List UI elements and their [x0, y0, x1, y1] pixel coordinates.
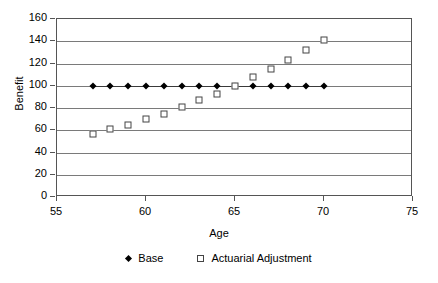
y-tick-mark-120 [50, 63, 55, 64]
legend-label-base: Base [138, 252, 163, 264]
data-point-actuarial-adjustment-68 [285, 57, 292, 64]
data-point-base-60 [142, 82, 149, 89]
x-tick-label-55: 55 [36, 206, 76, 217]
y-tick-mark-0 [50, 196, 55, 197]
y-tick-label-160: 160 [0, 12, 47, 23]
data-point-base-61 [160, 82, 167, 89]
data-point-base-68 [285, 82, 292, 89]
y-tick-label-20: 20 [0, 168, 47, 179]
data-point-actuarial-adjustment-70 [321, 37, 328, 44]
y-tick-label-120: 120 [0, 57, 47, 68]
data-point-base-70 [320, 82, 327, 89]
y-tick-mark-60 [50, 129, 55, 130]
data-point-actuarial-adjustment-59 [125, 121, 132, 128]
data-point-base-59 [125, 82, 132, 89]
x-tick-label-75: 75 [392, 206, 432, 217]
y-tick-label-0: 0 [0, 190, 47, 201]
data-point-actuarial-adjustment-57 [89, 130, 96, 137]
gridline-140 [57, 41, 411, 42]
data-point-actuarial-adjustment-62 [178, 103, 185, 110]
x-tick-mark-55 [56, 196, 57, 201]
y-tick-label-60: 60 [0, 123, 47, 134]
plot-area [56, 18, 412, 196]
data-point-actuarial-adjustment-58 [107, 126, 114, 133]
x-tick-label-60: 60 [125, 206, 165, 217]
square-marker-icon [197, 255, 204, 262]
data-point-actuarial-adjustment-65 [232, 82, 239, 89]
data-point-actuarial-adjustment-64 [214, 90, 221, 97]
chart-legend: Base Actuarial Adjustment [0, 252, 438, 264]
x-tick-mark-70 [323, 196, 324, 201]
data-point-base-66 [249, 82, 256, 89]
x-tick-label-70: 70 [303, 206, 343, 217]
x-tick-mark-65 [234, 196, 235, 201]
x-tick-mark-60 [145, 196, 146, 201]
x-axis-title: Age [0, 228, 438, 239]
gridline-20 [57, 175, 411, 176]
data-point-actuarial-adjustment-63 [196, 97, 203, 104]
data-point-base-64 [214, 82, 221, 89]
x-tick-mark-75 [412, 196, 413, 201]
data-point-base-69 [303, 82, 310, 89]
data-point-base-67 [267, 82, 274, 89]
gridline-40 [57, 153, 411, 154]
y-tick-mark-100 [50, 85, 55, 86]
legend-entry-actuarial-adjustment: Actuarial Adjustment [197, 252, 311, 264]
data-point-actuarial-adjustment-66 [249, 73, 256, 80]
gridline-80 [57, 108, 411, 109]
y-tick-mark-20 [50, 174, 55, 175]
data-point-actuarial-adjustment-69 [303, 47, 310, 54]
y-tick-mark-160 [50, 18, 55, 19]
data-point-actuarial-adjustment-60 [143, 116, 150, 123]
data-point-actuarial-adjustment-67 [267, 66, 274, 73]
x-tick-label-65: 65 [214, 206, 254, 217]
diamond-marker-icon [125, 254, 132, 261]
data-point-base-58 [107, 82, 114, 89]
y-tick-mark-80 [50, 107, 55, 108]
data-point-base-62 [178, 82, 185, 89]
y-tick-label-100: 100 [0, 79, 47, 90]
data-point-base-57 [89, 82, 96, 89]
data-point-actuarial-adjustment-61 [160, 110, 167, 117]
y-tick-label-140: 140 [0, 34, 47, 45]
legend-entry-base: Base [126, 252, 163, 264]
legend-label-actuarial-adjustment: Actuarial Adjustment [211, 252, 311, 264]
y-tick-mark-140 [50, 40, 55, 41]
y-tick-label-80: 80 [0, 101, 47, 112]
gridline-120 [57, 64, 411, 65]
benefit-vs-age-chart: Benefit 020406080100120140160 5560657075… [0, 0, 438, 283]
data-point-base-63 [196, 82, 203, 89]
y-tick-mark-40 [50, 152, 55, 153]
y-tick-label-40: 40 [0, 146, 47, 157]
